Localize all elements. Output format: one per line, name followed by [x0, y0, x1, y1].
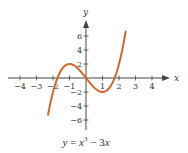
- y-tick-label: 4: [77, 46, 82, 55]
- y-tick-label: −4: [70, 102, 82, 111]
- axes: xy: [8, 7, 179, 130]
- y-tick-label: 6: [77, 32, 82, 41]
- x-tick-label: 3: [133, 82, 138, 91]
- x-tick-label: 4: [149, 82, 154, 91]
- x-axis-label: x: [174, 73, 179, 83]
- equation-caption: y = x3 − 3x: [0, 135, 172, 148]
- caption-x2: x: [105, 136, 110, 148]
- caption-lhs: y: [62, 136, 67, 148]
- caption-minus: −: [90, 136, 96, 148]
- x-tick-label: −4: [14, 82, 26, 91]
- caption-exponent: 3: [84, 135, 88, 143]
- cubic-curve: [48, 32, 126, 115]
- y-tick-label: −2: [70, 88, 82, 97]
- y-axis-arrow-icon: [83, 20, 89, 28]
- x-tick-label: 2: [116, 82, 121, 91]
- y-tick-label: −6: [70, 116, 82, 125]
- function-graph: xy −4−3−2−11234−6−4−2246: [0, 0, 188, 153]
- y-axis-label: y: [82, 7, 89, 17]
- caption-equals: =: [70, 136, 76, 148]
- x-axis-arrow-icon: [162, 75, 170, 81]
- x-tick-label: 1: [100, 82, 105, 91]
- x-tick-label: −3: [31, 82, 43, 91]
